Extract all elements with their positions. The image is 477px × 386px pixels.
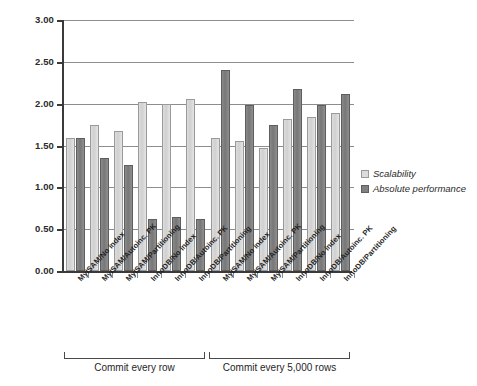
bar-chart: 0.000.501.001.502.002.503.00 MyISAM/No i… bbox=[0, 0, 477, 386]
legend-swatch-icon bbox=[361, 170, 369, 178]
legend-label: Scalability bbox=[373, 168, 416, 179]
group-bracket-caption: Commit every 5,000 rows bbox=[169, 362, 390, 373]
legend-label: Absolute performance bbox=[373, 183, 466, 194]
legend-item: Scalability bbox=[361, 168, 466, 179]
group-bracket bbox=[209, 352, 350, 359]
legend-item: Absolute performance bbox=[361, 183, 466, 194]
legend: ScalabilityAbsolute performance bbox=[361, 168, 466, 198]
legend-swatch-icon bbox=[361, 185, 369, 193]
group-bracket bbox=[64, 352, 205, 359]
